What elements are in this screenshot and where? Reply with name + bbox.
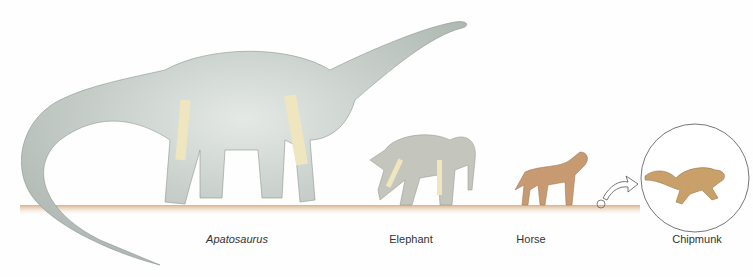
label-horse: Horse — [516, 233, 545, 245]
horse-figure — [515, 152, 587, 205]
arrow-icon — [603, 176, 638, 200]
elephant-figure — [370, 135, 475, 205]
animal-size-illustration — [0, 0, 753, 277]
ground — [20, 205, 640, 215]
chipmunk-inset — [641, 124, 749, 232]
label-elephant: Elephant — [389, 233, 432, 245]
illustration-canvas: Apatosaurus Elephant Horse Chipmunk — [0, 0, 753, 277]
label-apatosaurus: Apatosaurus — [206, 233, 268, 245]
label-chipmunk: Chipmunk — [672, 233, 722, 245]
